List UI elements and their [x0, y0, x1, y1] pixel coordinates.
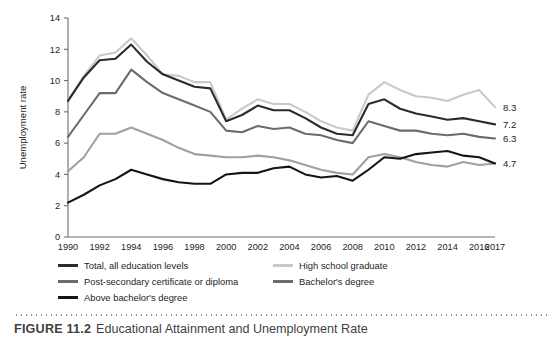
y-tick-label: 0	[55, 232, 60, 242]
figure-caption: FIGURE 11.2Educational Attainment and Un…	[14, 322, 554, 336]
x-tick-label: 2010	[374, 242, 394, 252]
y-tick-label: 12	[50, 45, 60, 55]
series-end-value: 4.7	[503, 158, 516, 169]
x-tick-label: 1996	[153, 242, 173, 252]
legend-item[interactable]: Above bachelor's degree	[58, 290, 288, 304]
series-end-labels: 8.37.26.34.7	[503, 102, 516, 169]
x-tick-label: 2014	[437, 242, 457, 252]
y-tick-label: 14	[50, 13, 60, 23]
legend-column-right: High school graduateBachelor's degree	[273, 258, 503, 290]
series-line	[68, 45, 495, 136]
series-end-value: 6.3	[503, 133, 516, 144]
y-tick-label: 6	[55, 138, 60, 148]
legend-swatch-icon	[58, 280, 78, 283]
y-tick-label: 8	[55, 107, 60, 117]
figure-caption-text: Educational Attainment and Unemployment …	[96, 322, 368, 336]
x-tick-label: 2008	[342, 242, 362, 252]
legend-column-left: Total, all education levelsPost-secondar…	[58, 258, 288, 306]
legend-swatch-icon	[273, 280, 293, 283]
legend-item[interactable]: Post-secondary certificate or diploma	[58, 274, 288, 288]
legend-item[interactable]: High school graduate	[273, 258, 503, 272]
y-tick-label: 10	[50, 76, 60, 86]
x-tick-label: 2006	[311, 242, 331, 252]
series-end-value: 8.3	[503, 102, 516, 113]
figure-caption-label: FIGURE 11.2	[14, 322, 91, 336]
x-tick-label: 2017	[485, 242, 505, 252]
legend-item-label: Total, all education levels	[84, 260, 188, 271]
legend-swatch-icon	[273, 264, 293, 267]
y-tick-label: 2	[55, 201, 60, 211]
figure-container: 02468101214 1990199219941996199820002002…	[0, 0, 559, 344]
chart-legend: Total, all education levelsPost-secondar…	[58, 258, 528, 304]
y-axis-title: Unemployment rate	[17, 86, 28, 170]
line-chart-svg: 02468101214 1990199219941996199820002002…	[0, 0, 559, 252]
legend-item-label: Post-secondary certificate or diploma	[84, 276, 238, 287]
x-tick-label: 1990	[58, 242, 78, 252]
legend-item-label: Above bachelor's degree	[84, 292, 187, 303]
caption-divider	[14, 314, 547, 316]
legend-swatch-icon	[58, 296, 78, 299]
x-axis-ticks: 1990199219941996199820002002200420062008…	[58, 242, 505, 252]
x-tick-label: 1992	[89, 242, 109, 252]
x-tick-label: 2004	[279, 242, 299, 252]
x-tick-label: 1994	[121, 242, 141, 252]
x-tick-label: 2002	[248, 242, 268, 252]
legend-item[interactable]: Bachelor's degree	[273, 274, 503, 288]
series-end-value: 7.2	[503, 119, 516, 130]
series-line	[68, 70, 495, 144]
series-lines	[68, 38, 495, 202]
legend-item[interactable]: Total, all education levels	[58, 258, 288, 272]
y-axis-ticks: 02468101214	[50, 13, 68, 242]
y-tick-label: 4	[55, 170, 60, 180]
legend-item-label: Bachelor's degree	[299, 276, 374, 287]
legend-item-label: High school graduate	[299, 260, 388, 271]
chart-plot-area: 02468101214 1990199219941996199820002002…	[0, 0, 559, 252]
x-tick-label: 1998	[184, 242, 204, 252]
x-tick-label: 2000	[216, 242, 236, 252]
x-tick-label: 2012	[406, 242, 426, 252]
legend-swatch-icon	[58, 264, 78, 267]
